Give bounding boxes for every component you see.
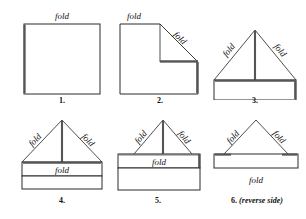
step-6-figure: fold fold fold xyxy=(206,114,304,194)
step-5-fold-label-band: fold xyxy=(152,157,167,167)
step-6-fold-label-below: fold xyxy=(249,175,264,185)
step-6-caption: 6. (reverse side) xyxy=(214,196,300,205)
step-5-fold-label-left: fold xyxy=(132,128,149,146)
step-6-caption-number: 6. xyxy=(231,196,237,205)
step-5-body xyxy=(118,168,200,190)
step-1-sheet xyxy=(24,24,100,94)
step-4-fold-label-band: fold xyxy=(55,165,70,175)
step-2-sheet xyxy=(120,24,198,94)
step-3-caption: 3. xyxy=(225,96,285,105)
step-2-figure: fold fold xyxy=(112,8,208,100)
step-3-figure: fold fold xyxy=(206,8,304,100)
step-6-fold-label-right: fold xyxy=(271,128,288,145)
step-6-caption-note: (reverse side) xyxy=(239,196,283,205)
step-1-fold-label-top: fold xyxy=(55,11,70,21)
step-4-caption: 4. xyxy=(32,196,92,205)
step-4-fold-label-left: fold xyxy=(26,131,43,148)
folding-instructions-diagram: fold 1. fold fold 2. fold fold 3. xyxy=(0,0,306,219)
step-3-fold-label-right: fold xyxy=(272,41,289,59)
step-5-figure: fold fold fold xyxy=(110,114,206,194)
step-2-fold-label-top: fold xyxy=(127,11,142,21)
step-5-fold-label-right: fold xyxy=(176,128,193,146)
step-2-caption: 2. xyxy=(130,96,190,105)
step-5-caption: 5. xyxy=(128,196,188,205)
step-4-band-lower xyxy=(22,176,102,189)
step-1-caption: 1. xyxy=(32,96,92,105)
step-1-figure: fold xyxy=(14,8,110,100)
step-4-figure: fold fold fold xyxy=(14,114,110,194)
step-4-fold-label-right: fold xyxy=(80,131,97,148)
step-6-fold-label-left: fold xyxy=(224,128,241,145)
step-6-bar xyxy=(214,154,298,168)
step-3-fold-label-left: fold xyxy=(220,41,237,59)
